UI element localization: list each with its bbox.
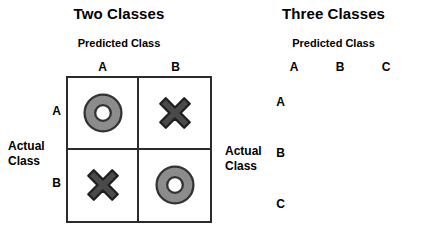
ring-icon [152, 162, 198, 208]
cross-icon [80, 162, 126, 208]
column-header-a-two: A [66, 61, 139, 74]
predicted-class-axis-label-three: Predicted Class [226, 37, 441, 49]
actual-class-axis-label-three: Actual Class [225, 144, 277, 174]
column-header-c-three: C [363, 61, 409, 74]
three-classes-panel: Three Classes Predicted Class A B C Actu… [220, 0, 441, 239]
two-classes-panel: Two Classes Predicted Class A B Actual C… [0, 0, 220, 239]
matrix-cell-b-b[interactable] [139, 150, 210, 222]
page-title-two-classes: Two Classes [18, 6, 220, 22]
predicted-class-axis-label-two: Predicted Class [18, 37, 220, 49]
row-header-a-two: A [50, 105, 63, 118]
page-title-three-classes: Three Classes [226, 6, 441, 22]
actual-class-axis-label-two: Actual Class [8, 139, 60, 169]
matrix-cell-a-a[interactable] [68, 78, 139, 150]
row-header-a-three: A [274, 96, 287, 109]
matrix-cell-b-a[interactable] [68, 150, 139, 222]
row-header-c-three: C [274, 198, 287, 211]
confusion-matrix-two-classes [66, 76, 212, 223]
row-header-b-three: B [274, 147, 287, 160]
row-header-b-two: B [50, 177, 63, 190]
column-header-b-two: B [139, 61, 212, 74]
cross-icon [152, 90, 198, 136]
ring-icon [80, 90, 126, 136]
matrix-cell-a-b[interactable] [139, 78, 210, 150]
column-header-a-three: A [271, 61, 317, 74]
column-header-b-three: B [317, 61, 363, 74]
